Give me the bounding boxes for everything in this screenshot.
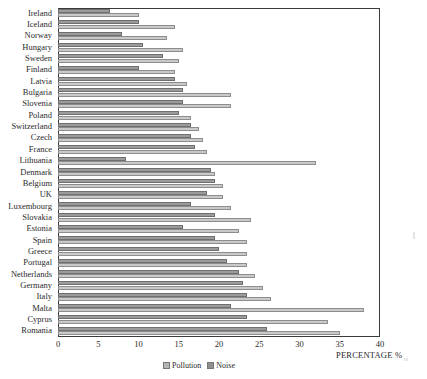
bar-noise-bulgaria xyxy=(58,93,231,97)
y-axis-label-italy: Italy xyxy=(36,292,52,301)
bar-group-slovakia xyxy=(58,212,380,223)
bar-group-estonia xyxy=(58,224,380,235)
bar-noise-estonia xyxy=(58,229,239,233)
y-axis-label-bulgaria: Bulgaria xyxy=(23,88,52,97)
bar-noise-slovenia xyxy=(58,104,231,108)
x-tick-0: 0 xyxy=(56,339,60,349)
y-axis-label-sweden: Sweden xyxy=(25,54,52,63)
bar-noise-hungary xyxy=(58,48,183,52)
bar-pollution-bulgaria xyxy=(58,88,183,92)
y-axis-label-netherlands: Netherlands xyxy=(11,270,52,279)
y-axis-label-cyprus: Cyprus xyxy=(27,315,52,324)
x-axis-title: PERCENTAGE % xyxy=(336,350,402,360)
y-axis-label-latvia: Latvia xyxy=(30,77,52,86)
y-axis-label-malta: Malta xyxy=(32,304,52,313)
bar-pollution-france xyxy=(58,145,195,149)
bar-noise-denmark xyxy=(58,172,215,176)
bar-pollution-czech xyxy=(58,134,191,138)
y-axis-label-luxembourg: Luxembourg xyxy=(8,202,52,211)
bar-noise-latvia xyxy=(58,82,187,86)
y-axis-label-norway: Norway xyxy=(25,31,52,40)
bar-group-slovenia xyxy=(58,99,380,110)
y-axis-label-finland: Finland xyxy=(26,65,52,74)
bar-pollution-poland xyxy=(58,111,179,115)
bar-group-hungary xyxy=(58,42,380,53)
legend-item-noise: Noise xyxy=(207,361,235,370)
x-tick-10: 10 xyxy=(134,339,143,349)
legend-swatch-noise-icon xyxy=(207,362,214,369)
y-axis-label-slovakia: Slovakia xyxy=(22,213,52,222)
bar-group-greece xyxy=(58,246,380,257)
bar-pollution-italy xyxy=(58,293,247,297)
y-axis-label-romania: Romania xyxy=(21,326,52,335)
bar-group-romania xyxy=(58,326,380,337)
chart-legend: Pollution Noise xyxy=(163,361,235,370)
y-axis-label-iceland: Iceland xyxy=(27,20,52,29)
bar-pollution-luxembourg xyxy=(58,202,191,206)
bar-pollution-malta xyxy=(58,304,231,308)
legend-item-pollution: Pollution xyxy=(163,361,201,370)
y-axis-label-hungary: Hungary xyxy=(22,43,52,52)
bar-group-spain xyxy=(58,235,380,246)
bar-group-germany xyxy=(58,280,380,291)
bar-group-norway xyxy=(58,31,380,42)
bar-pollution-uk xyxy=(58,191,207,195)
bar-noise-iceland xyxy=(58,25,175,29)
legend-label-pollution: Pollution xyxy=(172,361,201,370)
bar-noise-sweden xyxy=(58,59,179,63)
bar-group-uk xyxy=(58,190,380,201)
bar-pollution-finland xyxy=(58,66,139,70)
bar-pollution-germany xyxy=(58,281,243,285)
bar-pollution-belgium xyxy=(58,179,215,183)
bar-group-italy xyxy=(58,292,380,303)
bar-noise-czech xyxy=(58,138,203,142)
bar-noise-germany xyxy=(58,286,263,290)
y-axis-label-ireland: Ireland xyxy=(28,9,52,18)
bar-pollution-slovenia xyxy=(58,100,183,104)
bar-group-portugal xyxy=(58,258,380,269)
y-axis-label-denmark: Denmark xyxy=(20,168,52,177)
x-tick-20: 20 xyxy=(215,339,224,349)
y-axis-label-uk: UK xyxy=(40,190,52,199)
bar-group-finland xyxy=(58,65,380,76)
bar-group-sweden xyxy=(58,53,380,64)
bar-pollution-cyprus xyxy=(58,315,247,319)
y-axis-label-estonia: Estonia xyxy=(27,224,53,233)
bar-pollution-switzerland xyxy=(58,123,191,127)
chart-container: IrelandIcelandNorwayHungarySwedenFinland… xyxy=(0,0,427,379)
bar-noise-greece xyxy=(58,252,247,256)
bar-pollution-ireland xyxy=(58,9,110,13)
bar-noise-netherlands xyxy=(58,274,255,278)
bar-pollution-norway xyxy=(58,32,122,36)
bar-noise-switzerland xyxy=(58,127,199,131)
bar-group-switzerland xyxy=(58,121,380,132)
bar-pollution-romania xyxy=(58,327,267,331)
bar-group-iceland xyxy=(58,19,380,30)
x-tick-40: 40 xyxy=(376,339,385,349)
x-tick-5: 5 xyxy=(96,339,100,349)
bar-group-netherlands xyxy=(58,269,380,280)
bar-noise-slovakia xyxy=(58,218,251,222)
bar-group-lithuania xyxy=(58,155,380,166)
x-tick-30: 30 xyxy=(295,339,304,349)
x-tick-25: 25 xyxy=(255,339,264,349)
bar-pollution-slovakia xyxy=(58,213,215,217)
bar-noise-poland xyxy=(58,116,191,120)
bar-pollution-iceland xyxy=(58,20,139,24)
bar-noise-romania xyxy=(58,331,340,335)
bar-group-ireland xyxy=(58,8,380,19)
bar-pollution-denmark xyxy=(58,168,211,172)
y-axis-category-labels: IrelandIcelandNorwayHungarySwedenFinland… xyxy=(0,8,55,337)
bar-group-bulgaria xyxy=(58,87,380,98)
bar-group-luxembourg xyxy=(58,201,380,212)
y-axis-label-switzerland: Switzerland xyxy=(11,122,52,131)
bar-noise-portugal xyxy=(58,263,247,267)
bar-pollution-portugal xyxy=(58,259,227,263)
legend-swatch-pollution-icon xyxy=(163,362,170,369)
y-axis-label-belgium: Belgium xyxy=(23,179,52,188)
bar-pollution-hungary xyxy=(58,43,143,47)
bar-noise-italy xyxy=(58,297,271,301)
bar-noise-ireland xyxy=(58,13,139,17)
bar-noise-spain xyxy=(58,240,247,244)
bar-pollution-greece xyxy=(58,247,219,251)
